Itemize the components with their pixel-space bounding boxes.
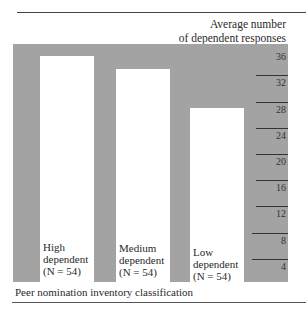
y-tick-line [256, 206, 288, 207]
bar-label-line: dependent [43, 253, 88, 265]
y-tick-label: 36 [276, 51, 286, 62]
y-tick-label: 28 [276, 104, 286, 115]
bottom-rule [12, 302, 306, 303]
y-axis-label-line-1: Average number [179, 17, 286, 31]
bar-label-line: dependent [193, 258, 238, 270]
y-tick-line [256, 154, 288, 155]
bar-label-line: (N = 54) [193, 270, 238, 282]
x-axis-label: Peer nomination inventory classification [15, 286, 193, 298]
y-tick-label: 24 [276, 130, 286, 141]
bar-label-line: High [43, 241, 88, 253]
bar-label: Mediumdependent(N = 54) [119, 242, 164, 278]
y-tick-label: 16 [276, 182, 286, 193]
y-tick-label: 32 [276, 77, 286, 88]
y-tick-line [256, 128, 288, 129]
bar-label-line: (N = 54) [119, 266, 164, 278]
y-tick-label: 8 [281, 235, 286, 246]
bar-label-line: Medium [119, 242, 164, 254]
y-tick-line [252, 259, 288, 260]
bar-label-line: Low [193, 246, 238, 258]
y-tick-line [256, 75, 288, 76]
y-tick-line [256, 180, 288, 181]
plot-area: Highdependent(N = 54)Mediumdependent(N =… [13, 44, 288, 282]
y-axis-label: Average number of dependent responses [179, 17, 286, 45]
top-rule [17, 12, 306, 13]
y-axis-label-line-2: of dependent responses [179, 31, 286, 45]
y-tick-label: 12 [276, 208, 286, 219]
y-tick-label: 20 [276, 156, 286, 167]
bar-label: Highdependent(N = 54) [43, 241, 88, 277]
y-tick-label: 4 [281, 261, 286, 272]
bar-label: Lowdependent(N = 54) [193, 246, 238, 282]
bar-label-line: (N = 54) [43, 265, 88, 277]
bar-label-line: dependent [119, 254, 164, 266]
y-tick-line [256, 102, 288, 103]
y-tick-line [252, 233, 288, 234]
